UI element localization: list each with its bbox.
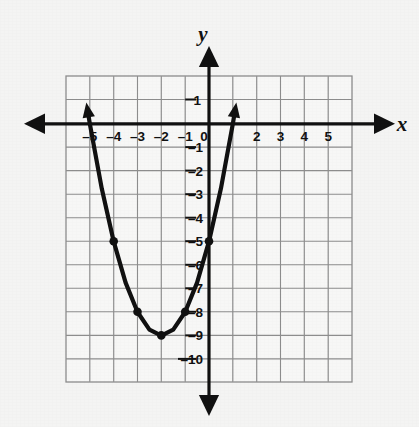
point--3--8 (133, 308, 142, 317)
x-tick-label-3: 3 (277, 129, 285, 144)
point--1--8 (181, 308, 190, 317)
point-0--5 (205, 237, 214, 246)
x-axis-arrow-right (374, 114, 395, 134)
x-tick-label-4: 4 (301, 129, 309, 144)
x-tick-label--3: –3 (130, 129, 146, 144)
y-axis-label: y (195, 22, 208, 46)
point--4--5 (109, 237, 118, 246)
point--2--9 (157, 331, 166, 340)
x-tick-label--2: –2 (154, 129, 169, 144)
y-axis-arrow-down (199, 395, 219, 416)
graph-figure: y x –5 –4 –3 –2 –1 2 3 4 5 1 0 –1 –2 –3 … (0, 0, 419, 427)
x-axis-label: x (396, 112, 408, 136)
x-tick-label-5: 5 (324, 129, 332, 144)
x-tick-label--4: –4 (106, 129, 122, 144)
x-axis-arrow-left (24, 114, 45, 134)
x-tick-label-2: 2 (253, 129, 261, 144)
y-axis-arrow-up (199, 46, 219, 67)
